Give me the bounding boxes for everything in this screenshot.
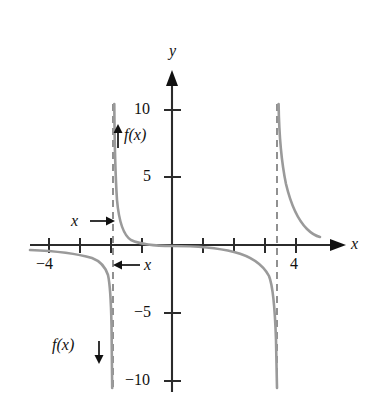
x-tick-label-4: 4 [290,256,298,272]
y-axis-label: y [169,43,176,59]
curve-branch-right [279,104,320,237]
x-tick-label--4: −4 [36,256,53,272]
y-axis-arrowhead [166,70,178,86]
arrow-f-down-head [95,355,104,364]
y-axis [166,70,178,392]
figure-canvas: y x 10 5 −5 −10 −4 4 x x f(x) f(x) [0,0,378,416]
annotation-f-increasing: f(x) [124,127,146,143]
arrow-f-down [95,341,104,364]
y-tick-label--5: −5 [134,304,151,320]
y-tick-label--10: −10 [125,372,150,388]
annotation-x-approaching-left: x [144,257,151,273]
graph-svg [0,0,378,416]
x-axis-arrowhead [330,239,346,251]
x-axis-label: x [351,236,358,252]
arrow-x-left [113,261,140,270]
annotation-x-approaching-right: x [71,213,78,229]
arrow-x-left-head [113,261,122,270]
arrow-x-right [90,217,115,226]
y-tick-label-5: 5 [143,168,151,184]
y-tick-label-10: 10 [134,101,150,117]
annotation-f-decreasing: f(x) [52,337,74,353]
